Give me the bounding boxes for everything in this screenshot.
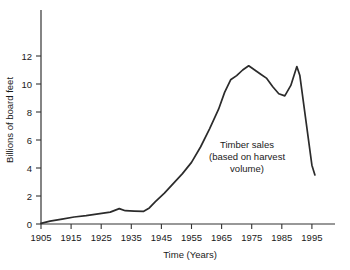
y-tick-label-4: 4 bbox=[27, 163, 32, 174]
chart-page: Billions of board feet 0 2 4 6 8 10 12 bbox=[0, 0, 350, 270]
y-axis-ticks: 0 2 4 6 8 10 12 bbox=[21, 51, 41, 230]
y-tick-label-12: 12 bbox=[21, 51, 32, 62]
x-tick-label-1985: 1985 bbox=[271, 232, 292, 243]
timber-sales-annotation: Timber sales (based on harvest volume) bbox=[209, 139, 285, 174]
annotation-line-2: (based on harvest bbox=[209, 151, 285, 162]
x-tick-label-1905: 1905 bbox=[30, 232, 51, 243]
annotation-line-1: Timber sales bbox=[220, 139, 274, 150]
x-axis-ticks: 1905 1915 1925 1935 1945 1955 1965 1975 … bbox=[30, 224, 322, 243]
x-tick-label-1965: 1965 bbox=[211, 232, 232, 243]
y-tick-label-6: 6 bbox=[27, 135, 32, 146]
x-tick-label-1955: 1955 bbox=[181, 232, 202, 243]
x-tick-label-1935: 1935 bbox=[121, 232, 142, 243]
timber-sales-line-chart: Billions of board feet 0 2 4 6 8 10 12 bbox=[0, 0, 350, 270]
y-axis-title: Billions of board feet bbox=[4, 77, 15, 163]
x-tick-label-1945: 1945 bbox=[151, 232, 172, 243]
x-tick-label-1925: 1925 bbox=[91, 232, 112, 243]
y-tick-label-0: 0 bbox=[27, 219, 32, 230]
annotation-line-3: volume) bbox=[230, 163, 264, 174]
y-tick-label-8: 8 bbox=[27, 107, 32, 118]
x-tick-label-1915: 1915 bbox=[61, 232, 82, 243]
x-tick-label-1975: 1975 bbox=[241, 232, 262, 243]
x-axis-title: Time (Years) bbox=[163, 249, 217, 260]
y-tick-label-2: 2 bbox=[27, 191, 32, 202]
x-tick-label-1995: 1995 bbox=[301, 232, 322, 243]
y-tick-label-10: 10 bbox=[21, 79, 32, 90]
